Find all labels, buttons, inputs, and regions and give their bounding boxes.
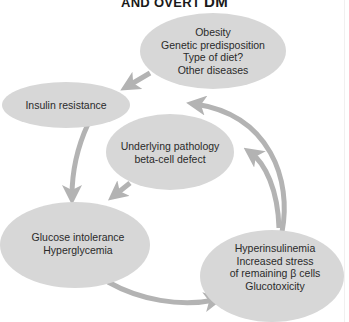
risk-line: Obesity xyxy=(140,26,286,39)
hyperinsulinemia-line: Hyperinsulinemia xyxy=(210,242,340,255)
glucose-intolerance-text: Glucose intolerance Hyperglycemia xyxy=(8,231,148,256)
glucose-line: Hyperglycemia xyxy=(8,244,148,257)
arrow-pathology-to-glucose xyxy=(115,183,130,195)
hyperinsulinemia-text: Hyperinsulinemia Increased stress of rem… xyxy=(210,242,340,292)
arrow-insulin-resistance-to-glucose xyxy=(72,124,88,196)
hyperinsulinemia-line: Increased stress xyxy=(210,255,340,268)
risk-factors-text: Obesity Genetic predisposition Type of d… xyxy=(140,26,286,76)
pathology-line: Underlying pathology xyxy=(108,140,232,153)
risk-line: Genetic predisposition xyxy=(140,39,286,52)
hyperinsulinemia-line: Glucotoxicity xyxy=(210,280,340,293)
insulin-resistance-line: Insulin resistance xyxy=(6,99,126,112)
arrow-glucose-to-hyperinsulinemia xyxy=(108,282,215,303)
underlying-pathology-text: Underlying pathology beta-cell defect xyxy=(108,140,232,165)
risk-line: Other diseases xyxy=(140,64,286,77)
hyperinsulinemia-line: of remaining β cells xyxy=(210,267,340,280)
insulin-resistance-text: Insulin resistance xyxy=(6,99,126,112)
glucose-line: Glucose intolerance xyxy=(8,231,148,244)
pathology-line: beta-cell defect xyxy=(108,153,232,166)
risk-line: Type of diet? xyxy=(140,51,286,64)
